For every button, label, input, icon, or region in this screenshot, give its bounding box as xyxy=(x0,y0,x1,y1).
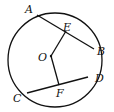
circle xyxy=(8,13,102,107)
segment-oe xyxy=(51,31,66,56)
segment-of xyxy=(51,56,59,85)
circle-diagram: A B C D E F O xyxy=(0,0,114,112)
label-o: O xyxy=(38,51,47,64)
label-f: F xyxy=(55,87,64,100)
center-point xyxy=(50,55,52,57)
label-a: A xyxy=(24,3,33,16)
label-d: D xyxy=(94,72,104,85)
label-c: C xyxy=(13,92,22,105)
label-e: E xyxy=(62,21,71,34)
label-b: B xyxy=(96,45,105,58)
